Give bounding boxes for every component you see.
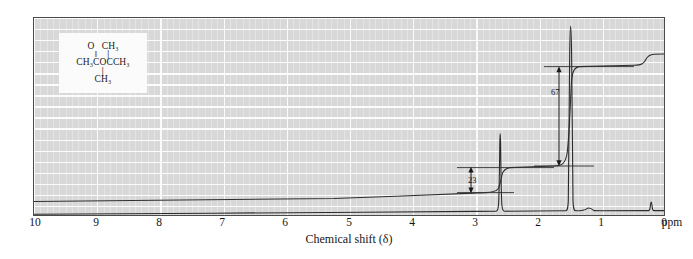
tick-6: 6 <box>282 217 288 229</box>
integration-value-67: 67 <box>551 88 560 97</box>
structure-bottom-methyl: CH₃ <box>95 75 112 85</box>
x-axis-tick-labels: 10 9 8 7 6 5 4 3 2 1 0 <box>33 217 665 233</box>
tick-10: 10 <box>29 217 41 229</box>
tick-8: 8 <box>156 217 162 229</box>
tick-2: 2 <box>535 217 541 229</box>
spectrum-plot-area: O CH₃ ‖ │ CH₃COCCH₃ │ CH₃ <box>33 17 665 216</box>
tick-4: 4 <box>409 217 415 229</box>
x-axis-title: Chemical shift (δ) <box>306 233 393 245</box>
tick-1: 1 <box>598 217 604 229</box>
nmr-spectrum-figure: O CH₃ ‖ │ CH₃COCCH₃ │ CH₃ 23 67 10 9 8 7… <box>0 0 693 259</box>
tick-3: 3 <box>472 217 478 229</box>
integration-value-23: 23 <box>468 176 477 185</box>
tick-5: 5 <box>346 217 352 229</box>
tick-7: 7 <box>219 217 225 229</box>
integral-67-arrow <box>556 66 561 166</box>
chemical-structure-inset: O CH₃ ‖ │ CH₃COCCH₃ │ CH₃ <box>59 33 147 93</box>
ppm-unit-label: ppm <box>662 217 682 229</box>
tick-9: 9 <box>93 217 99 229</box>
